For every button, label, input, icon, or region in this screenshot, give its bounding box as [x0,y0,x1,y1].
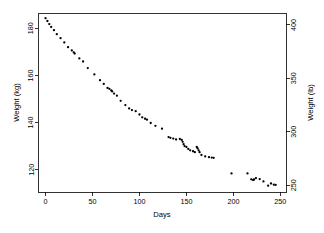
data-point [200,154,202,156]
data-point [73,52,75,54]
data-point [120,100,122,102]
x-tick-label: 200 [227,197,239,206]
data-point [267,184,269,186]
data-point [82,60,84,62]
data-point [128,107,130,109]
x-tick-label: 0 [44,197,48,206]
data-point [262,180,264,182]
data-point [44,17,46,19]
data-point [204,155,206,157]
x-tick-label: 150 [180,197,192,206]
data-point [175,138,177,140]
data-point [135,110,137,112]
data-point [189,149,191,151]
data-point [131,109,133,111]
y-tick-label-left: 120 [27,164,36,176]
data-point [230,172,232,174]
data-point [71,49,73,51]
data-point [138,113,140,115]
x-axis-title: Days [153,210,171,219]
x-tick-label: 250 [274,197,286,206]
data-point [182,141,184,143]
data-point [185,146,187,148]
data-point [93,73,95,75]
y-tick-label-right: 400 [290,19,299,31]
data-point [194,151,196,153]
data-point [103,83,105,85]
data-point [78,57,80,59]
chart-figure: 050100150200250 120140160180 25030035040… [0,0,324,233]
data-point [169,137,171,139]
y-tick-label-left: 180 [27,22,36,34]
y-tick-label-left: 160 [27,69,36,81]
y-axis-title-right: Weight (lb) [306,84,315,121]
data-point [87,67,89,69]
data-point [198,151,200,153]
x-axis: 050100150200250 [44,192,287,206]
y-tick-label-left: 140 [27,117,36,129]
y-tick-label-right: 350 [290,72,299,84]
data-point [213,157,215,159]
axis-titles: DaysWeight (kg)Weight (lb) [12,83,315,219]
data-point [275,184,277,186]
data-point [161,127,163,129]
data-point [208,156,210,158]
data-points [44,17,276,187]
data-point [108,88,110,90]
data-point [46,20,48,22]
y-tick-label-right: 300 [290,126,299,138]
data-point [116,95,118,97]
data-point [259,178,261,180]
data-point [255,177,257,179]
scatter-plot: 050100150200250 120140160180 25030035040… [0,0,324,233]
data-point [111,90,113,92]
data-point [150,122,152,124]
data-point [99,79,101,81]
data-point [113,92,115,94]
data-point [187,148,189,150]
data-point [253,178,255,180]
y-axis-title-left: Weight (kg) [12,83,21,122]
data-point [56,33,58,35]
data-point [146,119,148,121]
x-tick-label: 100 [133,197,145,206]
data-point [59,37,61,39]
data-point [124,104,126,106]
y-axis-right: 250300350400 [286,19,299,191]
data-point [172,137,174,139]
y-axis-left: 120140160180 [27,22,39,175]
data-point [67,46,69,48]
plot-frame [38,13,286,192]
data-point [50,26,52,28]
plot-border [38,13,286,192]
data-point [270,182,272,184]
data-point [63,41,65,43]
data-point [141,116,143,118]
data-point [154,125,156,127]
y-tick-label-right: 250 [290,179,299,191]
x-tick-label: 50 [88,197,96,206]
data-point [246,172,248,174]
data-point [48,23,50,25]
data-point [53,29,55,31]
